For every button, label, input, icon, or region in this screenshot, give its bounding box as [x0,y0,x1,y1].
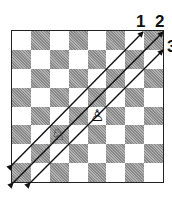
board-square [50,31,69,50]
board-square [88,88,107,107]
board-square [106,88,125,107]
board-square [144,69,163,88]
board-square [125,69,144,88]
board-square [50,107,69,126]
board-square [69,50,88,69]
board-square [106,163,125,182]
board-square [106,50,125,69]
board-square [88,50,107,69]
board-square [31,107,50,126]
board-square [69,107,88,126]
board-square [144,125,163,144]
board-square [31,31,50,50]
board-square [50,69,69,88]
board-square [106,69,125,88]
board-square [69,69,88,88]
board-square [144,144,163,163]
board-square [31,69,50,88]
board-square [12,163,31,182]
board-square [125,144,144,163]
diagonal-label-1: 1 [136,13,145,30]
board-square [50,163,69,182]
board-square [50,144,69,163]
board-square [88,163,107,182]
board-square [88,69,107,88]
board-square [125,107,144,126]
board-square [106,107,125,126]
board-square [144,107,163,126]
board-square [69,144,88,163]
board-square [144,50,163,69]
board-square [12,69,31,88]
board-square [69,88,88,107]
board-square [106,125,125,144]
board-square [106,144,125,163]
pawn-icon: ♙ [90,108,104,124]
board-square [31,144,50,163]
board-square [125,50,144,69]
board-square [88,31,107,50]
board-square [144,163,163,182]
board-square [69,125,88,144]
board-square [12,107,31,126]
board-square [125,31,144,50]
board-square [69,31,88,50]
board-square [12,88,31,107]
board-square [31,88,50,107]
diagonal-label-2: 2 [155,13,164,30]
board-square [125,88,144,107]
board-square [88,125,107,144]
board-square [106,31,125,50]
chessboard [11,30,164,183]
knight-icon: ♘ [51,127,65,143]
board-square [50,88,69,107]
board-square [12,50,31,69]
board-square [12,125,31,144]
board-square [50,50,69,69]
diagonal-label-3: 3 [167,38,172,55]
board-square [12,31,31,50]
board-square [12,144,31,163]
board-square [144,88,163,107]
board-square [69,163,88,182]
board-square [31,125,50,144]
board-square [125,163,144,182]
board-square [31,50,50,69]
board-square [31,163,50,182]
board-square [88,144,107,163]
board-square [144,31,163,50]
board-square [125,125,144,144]
